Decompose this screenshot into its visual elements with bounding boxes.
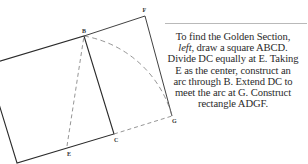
caption-line: To find the Golden Section, <box>160 31 306 42</box>
caption-line: arc through B. Extend DC to <box>160 76 306 87</box>
caption-line: left, draw a square ABCD. <box>160 42 306 53</box>
point-label-b: B <box>82 28 86 34</box>
caption-divider <box>165 23 307 24</box>
square-abcd-edges <box>0 36 114 163</box>
dashed-line-e-b <box>67 36 84 146</box>
caption-italic-left: left <box>178 42 191 53</box>
point-label-c: C <box>114 137 118 143</box>
dashed-arc-b-g <box>84 36 172 116</box>
caption-line: rectangle ADGF. <box>160 98 306 109</box>
caption-line: Divide DC equally at E. Taking <box>160 53 306 64</box>
point-label-f: F <box>143 7 147 13</box>
dashed-line-c-g <box>114 116 172 134</box>
caption-line-rest: , draw a square ABCD. <box>191 42 287 53</box>
caption-line: meet the arc at G. Construct <box>160 87 306 98</box>
caption-text: To find the Golden Section, left, draw a… <box>160 31 306 109</box>
rectangle-extension-edges <box>84 16 172 116</box>
point-label-e: E <box>67 151 71 157</box>
point-label-g: G <box>172 118 177 124</box>
caption-line: E as the center, construct an <box>160 65 306 76</box>
